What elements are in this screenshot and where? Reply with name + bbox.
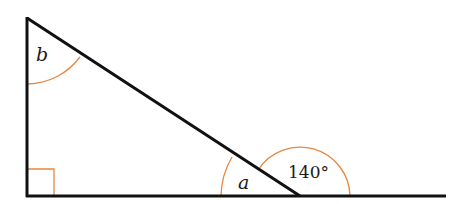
angle-a-arc [221,157,232,196]
triangle-diagram: b a 140° [0,0,455,204]
angle-b-label: b [36,43,48,65]
angle-a-label: a [238,171,249,193]
right-angle-marker [28,169,54,196]
angle-140-label: 140° [288,162,329,182]
hypotenuse [27,18,300,196]
